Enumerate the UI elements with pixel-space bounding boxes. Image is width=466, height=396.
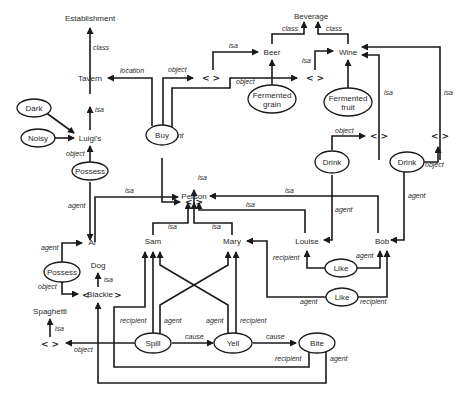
node-fermented-grain: Fermented grain — [248, 85, 296, 113]
node-fermented-fruit: Fermented fruit — [324, 88, 372, 116]
svg-text:Dark: Dark — [26, 104, 44, 113]
label-isa: isa — [212, 223, 221, 230]
label-location: location — [120, 67, 144, 74]
label-object: object — [425, 161, 445, 169]
label-cause: cause — [266, 333, 285, 340]
label-object: object — [335, 127, 355, 135]
node-bite: Bite — [299, 333, 335, 353]
blackie-close-bracket: > — [114, 290, 122, 300]
var-person-instance: < > — [185, 197, 203, 207]
label-recipient: recipient — [120, 317, 148, 325]
var-drink-object-2: < > — [431, 131, 449, 141]
svg-text:Drink: Drink — [323, 158, 343, 167]
label-class: class — [282, 25, 298, 32]
node-like-2: Like — [326, 288, 358, 306]
var-spaghetti-instance: < > — [41, 339, 59, 349]
edge-drink1-agent-louise — [324, 175, 332, 240]
label-class: class — [326, 25, 342, 32]
node-spill: Spill — [135, 333, 171, 353]
node-mary: Mary — [223, 237, 241, 246]
svg-text:Spill: Spill — [145, 339, 160, 348]
label-agent: agent — [164, 317, 183, 325]
edge-like2-agent-mary — [247, 241, 326, 297]
svg-text:grain: grain — [263, 100, 281, 109]
var-drink-object-1: < > — [370, 131, 388, 141]
label-agent: agent — [330, 355, 349, 363]
edge-drinkvar2-isa-wine — [362, 47, 440, 160]
node-dog: Dog — [91, 261, 106, 270]
node-establishment: Establishment — [65, 14, 116, 23]
node-drink-2: Drink — [390, 152, 424, 172]
node-tavern: Tavern — [78, 74, 102, 83]
node-beer: Beer — [264, 48, 281, 57]
label-agent: agent — [356, 252, 375, 260]
node-wine: Wine — [339, 48, 358, 57]
label-isa: isa — [384, 89, 393, 96]
svg-text:Like: Like — [335, 293, 350, 302]
svg-text:fruit: fruit — [341, 103, 355, 112]
edge-dark-luigis — [45, 112, 74, 133]
node-possess-2: Possess — [44, 262, 80, 282]
svg-text:Bite: Bite — [310, 339, 324, 348]
edge-buy-object-var1 — [163, 78, 193, 126]
svg-text:Possess: Possess — [47, 268, 77, 277]
svg-text:Drink: Drink — [398, 158, 418, 167]
label-isa: isa — [229, 42, 238, 49]
label-object: object — [66, 150, 86, 158]
node-dark: Dark — [17, 99, 51, 117]
node-beverage: Beverage — [294, 12, 329, 21]
node-noisy: Noisy — [21, 129, 55, 147]
label-object: object — [38, 283, 58, 291]
label-agent: agent — [206, 317, 225, 325]
node-luigis: Luigi's — [79, 134, 101, 143]
node-drink-1: Drink — [315, 151, 349, 173]
edge-like1-recipient-louise — [307, 251, 325, 268]
edge-buy-agent-personvar — [162, 158, 180, 202]
label-class: class — [93, 44, 109, 51]
label-recipient: recipient — [240, 317, 268, 325]
edge-possess2-object-blackie — [62, 282, 78, 294]
node-spaghetti: Spaghetti — [33, 307, 67, 316]
label-agent: agent — [300, 298, 319, 306]
edge-al-isa-person — [95, 197, 178, 242]
node-sam: Sam — [145, 237, 162, 246]
node-al: Al — [88, 238, 95, 247]
node-blackie: Blackie — [87, 290, 113, 299]
label-recipient: recipient — [275, 355, 303, 363]
label-isa: isa — [246, 201, 255, 208]
node-possess: Possess — [72, 162, 108, 180]
label-isa: isa — [168, 223, 177, 230]
edge-var1-isa-beer — [213, 52, 258, 70]
semantic-network-diagram: class isa location object agent object o… — [0, 0, 466, 396]
label-isa: isa — [285, 187, 294, 194]
variable-markers: < > < > < > < > < > < > < > — [41, 73, 449, 349]
svg-text:Fermented: Fermented — [329, 94, 368, 103]
svg-text:Yell: Yell — [227, 339, 240, 348]
label-isa: isa — [125, 187, 134, 194]
node-louise: Louise — [295, 237, 319, 246]
label-object: object — [236, 78, 256, 86]
edge-buy-location-tavern — [108, 78, 152, 126]
label-agent: agent — [68, 202, 87, 210]
edge-sam-isa-person — [153, 203, 188, 235]
node-like-1: Like — [325, 259, 357, 277]
edge-drink2-agent-bob — [391, 172, 404, 240]
label-agent: agent — [408, 192, 427, 200]
svg-text:Fermented: Fermented — [253, 91, 292, 100]
label-recipient: recipient — [273, 254, 301, 262]
node-bob: Bob — [375, 237, 390, 246]
edge-drink2-object-var — [424, 147, 438, 162]
label-isa: isa — [444, 89, 453, 96]
edge-possess2-agent-al — [62, 243, 82, 262]
label-isa: isa — [95, 106, 104, 113]
svg-text:Noisy: Noisy — [28, 134, 48, 143]
label-object: object — [74, 346, 94, 354]
label-cause: cause — [185, 333, 204, 340]
label-object: object — [168, 66, 188, 74]
label-isa: isa — [55, 325, 64, 332]
node-buy: Buy — [146, 125, 178, 145]
label-isa: isa — [198, 174, 207, 181]
edge-drink1-object-var — [332, 136, 365, 150]
label-isa: isa — [104, 276, 113, 283]
event-nodes: Dark Noisy Possess Buy Fermented grain F… — [17, 85, 424, 353]
